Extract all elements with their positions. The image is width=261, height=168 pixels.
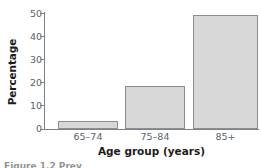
x-axis-title: Age group (years) bbox=[44, 145, 259, 157]
y-tick-mark bbox=[40, 82, 44, 83]
x-tick-label-65-74: 65–74 bbox=[58, 132, 118, 142]
y-axis-title: Percentage bbox=[4, 14, 20, 130]
y-tick-mark bbox=[40, 13, 44, 14]
y-tick-label: 40 bbox=[22, 32, 42, 42]
y-tick-mark bbox=[40, 105, 44, 106]
y-tick-mark bbox=[40, 59, 44, 60]
x-tick-label-85-plus: 85+ bbox=[193, 132, 258, 142]
y-tick-label: 20 bbox=[22, 78, 42, 88]
x-tick-label-75-84: 75–84 bbox=[125, 132, 185, 142]
y-tick-label: 0 bbox=[22, 124, 42, 134]
y-tick-label: 30 bbox=[22, 55, 42, 65]
x-axis-tick-labels: 65–74 75–84 85+ bbox=[44, 132, 259, 146]
y-axis-tick-labels: 50 40 30 20 10 0 bbox=[20, 0, 42, 168]
y-axis-title-text: Percentage bbox=[6, 39, 18, 106]
bar-chart-figure: Percentage 50 40 30 20 10 0 65–74 75–84 … bbox=[0, 0, 261, 168]
y-tick-mark bbox=[40, 129, 44, 130]
plot-area bbox=[44, 13, 259, 129]
bar-85-plus[interactable] bbox=[193, 15, 258, 128]
bar-75-84[interactable] bbox=[125, 86, 185, 129]
y-axis-line bbox=[44, 12, 45, 129]
y-tick-label: 10 bbox=[22, 101, 42, 111]
bar-65-74[interactable] bbox=[58, 121, 118, 129]
figure-caption-sliver: Figure 1.2 Prev bbox=[4, 161, 124, 168]
x-axis-line bbox=[43, 129, 259, 130]
y-tick-label: 50 bbox=[22, 9, 42, 19]
y-tick-mark bbox=[40, 36, 44, 37]
